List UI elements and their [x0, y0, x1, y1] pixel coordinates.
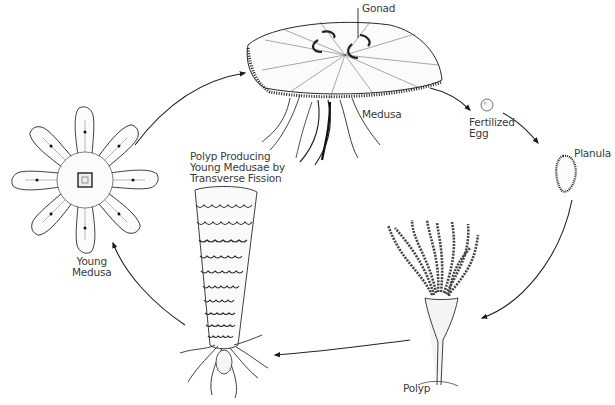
planula-illustration	[556, 156, 576, 192]
arrow-strobila-to-young-medusa	[113, 243, 185, 325]
young-medusa-illustration	[12, 107, 158, 253]
fertilized-egg-illustration	[481, 99, 493, 111]
arrow-planula-to-polyp	[482, 200, 572, 318]
medusa-illustration	[247, 8, 442, 165]
polyp-illustration	[388, 220, 478, 386]
gonad-label: Gonad	[362, 3, 395, 14]
polyp-label: Polyp	[403, 383, 430, 394]
strobila-label: Polyp Producing Young Medusae by Transve…	[190, 151, 285, 184]
arrow-polyp-to-strobila	[275, 340, 410, 355]
medusa-label: Medusa	[362, 109, 402, 120]
arrow-medusa-to-egg	[430, 88, 470, 110]
life-cycle-diagram: Gonad Medusa Fertilized Egg Planula Poly…	[0, 0, 615, 405]
planula-label: Planula	[574, 148, 611, 159]
fertilized-egg-label: Fertilized Egg	[469, 117, 515, 139]
diagram-canvas	[0, 0, 615, 405]
arrow-young-medusa-to-medusa	[135, 73, 245, 145]
strobila-illustration	[180, 186, 268, 398]
young-medusa-label: Young Medusa	[72, 256, 112, 278]
